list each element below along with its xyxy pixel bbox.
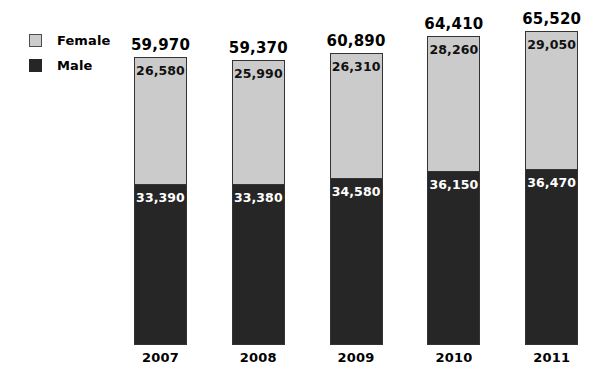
bar-category-label: 2009 [308,350,405,365]
bar-total-label: 60,890 [308,32,405,50]
stacked-bar[interactable]: 28,260 36,150 [427,36,480,345]
bar-group-2009: 60,890 26,310 34,580 2009 [330,53,383,345]
bar-segment-male[interactable]: 36,150 [428,172,479,344]
bar-segment-male-value: 36,150 [428,177,479,192]
stacked-bar[interactable]: 26,580 33,390 [134,57,187,345]
bar-group-2011: 65,520 29,050 36,470 2011 [525,31,578,345]
bar-segment-male[interactable]: 33,380 [233,185,284,344]
bar-segment-female-value: 26,310 [331,59,382,74]
bar-segment-female[interactable]: 29,050 [526,32,577,170]
bar-total-label: 64,410 [405,15,502,33]
bar-segment-female[interactable]: 26,580 [135,58,186,185]
bar-category-label: 2007 [112,350,209,365]
bar-group-2010: 64,410 28,260 36,150 2010 [427,36,480,345]
stacked-bar[interactable]: 29,050 36,470 [525,31,578,345]
stacked-bar-chart: Female Male 59,970 26,580 33,390 2007 59… [0,0,614,376]
bar-group-2007: 59,970 26,580 33,390 2007 [134,57,187,345]
bar-segment-female-value: 29,050 [526,37,577,52]
stacked-bar[interactable]: 26,310 34,580 [330,53,383,345]
bar-segment-female[interactable]: 26,310 [331,54,382,179]
bar-group-2008: 59,370 25,990 33,380 2008 [232,60,285,345]
bar-segment-female-value: 25,990 [233,66,284,81]
bar-segment-female-value: 28,260 [428,42,479,57]
bar-segment-male[interactable]: 36,470 [526,170,577,344]
plot-area: 59,970 26,580 33,390 2007 59,370 25,990 … [0,0,614,376]
bar-category-label: 2008 [210,350,307,365]
bar-category-label: 2010 [405,350,502,365]
bar-category-label: 2011 [503,350,600,365]
bar-total-label: 59,970 [112,36,209,54]
stacked-bar[interactable]: 25,990 33,380 [232,60,285,345]
bar-segment-male[interactable]: 33,390 [135,185,186,344]
bar-total-label: 59,370 [210,39,307,57]
bar-segment-female[interactable]: 28,260 [428,37,479,172]
bar-segment-male-value: 34,580 [331,184,382,199]
bar-segment-male-value: 36,470 [526,175,577,190]
bar-total-label: 65,520 [503,10,600,28]
bar-segment-male-value: 33,380 [233,190,284,205]
bar-segment-female-value: 26,580 [135,63,186,78]
bar-segment-male-value: 33,390 [135,190,186,205]
bar-segment-male[interactable]: 34,580 [331,179,382,344]
bar-segment-female[interactable]: 25,990 [233,61,284,185]
